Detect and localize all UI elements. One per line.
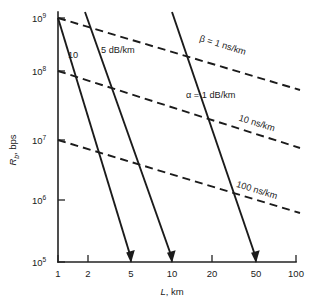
- y-tick-label-1e9: 109: [32, 12, 47, 24]
- x-tick-labels: 1 2 5 10 20 50 100: [55, 268, 304, 279]
- x-tick-label-2: 2: [85, 268, 90, 279]
- annotation-label-100nskm: 100 ns/km: [235, 179, 279, 201]
- curve-annotations: 10 5 dB/km α = 1 dB/km β = 1 ns/km 10 ns…: [68, 33, 279, 201]
- annotation-label-alpha: α = 1 dB/km: [186, 90, 236, 100]
- x-tick-label-50: 50: [251, 268, 262, 279]
- y-tick-label-1e8: 108: [32, 65, 47, 77]
- x-tick-label-100: 100: [288, 268, 304, 279]
- attenuation-curve-5dbkm-arrow: [251, 250, 260, 263]
- x-tick-label-5: 5: [128, 268, 133, 279]
- y-tick-label-1e5: 105: [32, 256, 47, 268]
- annotation-label-10-dbkm: 10: [68, 50, 78, 60]
- y-axis-title: Rb, bps: [7, 134, 20, 165]
- x-tick-label-20: 20: [207, 268, 218, 279]
- dispersion-curve-1nskm: [58, 18, 300, 90]
- x-axis-title: L, km: [160, 286, 183, 297]
- attenuation-curve-10dbkm-arrow: [167, 250, 176, 263]
- dispersion-curves: [58, 18, 300, 213]
- y-tick-label-1e6: 106: [32, 194, 47, 206]
- figure-container: 109 108 107 106 105 1 2 5 10 20 50 100: [0, 0, 312, 304]
- annotation-label-5-dbkm: 5 dB/km: [101, 45, 135, 55]
- x-tick-marks: [58, 255, 296, 262]
- y-tick-labels: 109 108 107 106 105: [32, 12, 47, 268]
- x-tick-label-1: 1: [55, 268, 60, 279]
- x-tick-label-10: 10: [167, 268, 178, 279]
- dispersion-curve-100nskm: [58, 140, 300, 213]
- annotation-label-10nskm: 10 ns/km: [238, 113, 277, 134]
- y-tick-label-1e7: 107: [32, 134, 47, 146]
- chart-canvas: 109 108 107 106 105 1 2 5 10 20 50 100: [0, 0, 312, 304]
- attenuation-curve-20dbkm-arrow: [126, 250, 135, 263]
- annotation-label-beta-1nskm: β = 1 ns/km: [199, 33, 248, 57]
